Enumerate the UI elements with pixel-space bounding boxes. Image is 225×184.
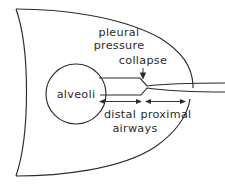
proximal-label: proximal [141, 108, 192, 121]
airways-label: airways [112, 122, 157, 135]
pleural-pressure-label-line2: pressure [94, 39, 145, 52]
pleural-space-left-edge [16, 9, 27, 176]
distal-label: distal [104, 108, 136, 121]
collapse-label: collapse [119, 54, 167, 67]
distal-span-left-arrowhead-icon [99, 99, 105, 104]
proximal-span-right-arrowhead-icon [180, 99, 186, 104]
diagram-canvas: pleural pressure collapse alveoli distal… [0, 0, 225, 184]
distal-span-right-arrowhead-icon [136, 99, 142, 104]
airway-lower-wall [100, 88, 225, 95]
proximal-span-left-arrowhead-icon [145, 99, 151, 104]
pleural-pressure-diagram: pleural pressure collapse alveoli distal… [0, 0, 225, 184]
pleural-pressure-label-line1: pleural [99, 26, 140, 39]
alveoli-label: alveoli [57, 88, 96, 101]
airway-upper-wall [99, 78, 225, 86]
